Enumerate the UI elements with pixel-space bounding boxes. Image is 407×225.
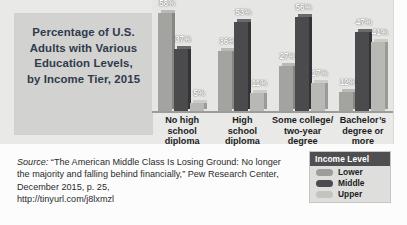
chart-panel: Percentage of U.S. Adults with Various E… bbox=[0, 0, 394, 144]
bar-side-face bbox=[385, 39, 388, 109]
bar-front-face bbox=[218, 51, 232, 112]
title-line-3: Education Levels, bbox=[20, 56, 147, 72]
title-line-4: by Income Tier, 2015 bbox=[20, 72, 147, 88]
category-label-line: Some college/ bbox=[270, 115, 336, 126]
legend-title: Income Level bbox=[310, 152, 390, 166]
bar-front-face bbox=[339, 92, 353, 112]
bar-upper[interactable] bbox=[371, 42, 385, 112]
bar-group: 27%56%17% bbox=[273, 0, 333, 112]
legend-swatch-lower-icon bbox=[316, 169, 333, 176]
bar-lower[interactable] bbox=[158, 13, 172, 112]
bar-middle[interactable] bbox=[234, 22, 248, 112]
chart-title-block: Percentage of U.S. Adults with Various E… bbox=[14, 13, 153, 135]
category-label: Highschooldiploma bbox=[209, 115, 275, 147]
bar-middle[interactable] bbox=[174, 49, 188, 112]
bar-lower[interactable] bbox=[279, 66, 293, 112]
bar-front-face bbox=[279, 66, 293, 112]
bar-slot bbox=[371, 0, 385, 112]
legend-item-upper[interactable]: Upper bbox=[310, 188, 390, 199]
category-label-line: diploma bbox=[209, 136, 275, 147]
title-line-1: Percentage of U.S. bbox=[20, 25, 147, 41]
axis-baseline bbox=[152, 111, 393, 113]
legend-item-lower[interactable]: Lower bbox=[310, 166, 390, 177]
bar-slot bbox=[295, 0, 309, 112]
bar-front-face bbox=[295, 17, 309, 112]
legend-swatch-middle-icon bbox=[316, 180, 333, 187]
source-text: “The American Middle Class Is Losing Gro… bbox=[17, 157, 281, 192]
category-label-line: Bachelor’s bbox=[330, 115, 396, 126]
bar-front-face bbox=[234, 22, 248, 112]
bar-group: 12%47%41% bbox=[333, 0, 393, 112]
bar-front-face bbox=[250, 93, 264, 112]
source-label: Source: bbox=[17, 157, 48, 167]
bar-middle[interactable] bbox=[355, 32, 369, 112]
category-label-line: No high bbox=[149, 115, 215, 126]
bar-value-label: 17% bbox=[303, 69, 337, 78]
bar-front-face bbox=[311, 83, 325, 112]
chart-page: Percentage of U.S. Adults with Various E… bbox=[0, 0, 407, 225]
bar-value-label: 11% bbox=[242, 79, 276, 88]
bar-middle[interactable] bbox=[295, 17, 309, 112]
plot-area: 58%37%5%36%53%11%27%56%17%12%47%41% bbox=[152, 0, 393, 112]
legend-label-middle: Middle bbox=[338, 178, 365, 188]
bar-front-face bbox=[158, 13, 172, 112]
category-label-line: school bbox=[149, 126, 215, 137]
source-note: Source: “The American Middle Class Is Lo… bbox=[17, 156, 285, 206]
legend-label-upper: Upper bbox=[338, 189, 362, 199]
bar-front-face bbox=[355, 32, 369, 112]
bar-upper[interactable] bbox=[311, 83, 325, 112]
bar-side-face bbox=[325, 80, 328, 109]
bar-lower[interactable] bbox=[339, 92, 353, 112]
bar-slot bbox=[339, 0, 353, 112]
source-url[interactable]: http://tinyurl.com/j8lxmzl bbox=[17, 193, 285, 205]
category-label-line: High bbox=[209, 115, 275, 126]
legend-swatch-upper-icon bbox=[316, 191, 333, 198]
bar-group: 36%53%11% bbox=[212, 0, 272, 112]
title-line-2: Adults with Various bbox=[20, 41, 147, 57]
category-label-line: two-year bbox=[270, 126, 336, 137]
category-label-line: degree bbox=[270, 136, 336, 147]
category-label-line: diploma bbox=[149, 136, 215, 147]
bar-value-label: 41% bbox=[363, 28, 397, 37]
bar-slot bbox=[311, 0, 325, 112]
bar-group: 58%37%5% bbox=[152, 0, 212, 112]
bar-slot bbox=[250, 0, 264, 112]
legend-item-middle[interactable]: Middle bbox=[310, 177, 390, 188]
category-label-line: degree or bbox=[330, 126, 396, 137]
category-label-line: more bbox=[330, 136, 396, 147]
category-label: No highschooldiploma bbox=[149, 115, 215, 147]
bar-value-label: 5% bbox=[182, 89, 216, 98]
category-label-line: school bbox=[209, 126, 275, 137]
bar-upper[interactable] bbox=[250, 93, 264, 112]
bar-front-face bbox=[174, 49, 188, 112]
category-label: Some college/two-yeardegree bbox=[270, 115, 336, 147]
category-label: Bachelor’sdegree ormore bbox=[330, 115, 396, 147]
bar-slot bbox=[355, 0, 369, 112]
legend-label-lower: Lower bbox=[338, 167, 363, 177]
bar-slot bbox=[158, 0, 172, 112]
bar-front-face bbox=[371, 42, 385, 112]
page-title: Percentage of U.S. Adults with Various E… bbox=[20, 25, 147, 87]
bar-lower[interactable] bbox=[218, 51, 232, 112]
chart-legend: Income Level Lower Middle Upper bbox=[309, 151, 391, 203]
